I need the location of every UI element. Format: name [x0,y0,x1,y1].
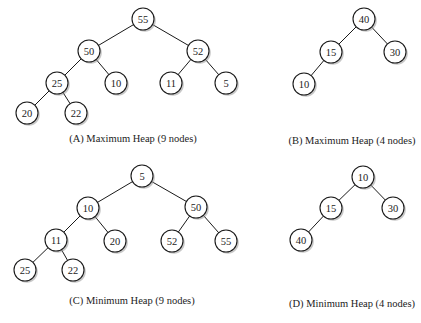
heap-a: 55505225101152022 [16,8,239,126]
node-value: 10 [299,79,310,90]
tree-node: 20 [104,230,128,254]
tree-node: 40 [353,8,377,32]
node-value: 10 [111,78,122,89]
node-value: 52 [167,236,178,247]
heap-figure: 5550522510115202240153010510501120525525… [0,0,421,323]
node-value: 55 [138,14,149,25]
tree-node: 11 [45,229,69,253]
tree-node: 5 [131,165,155,189]
node-value: 11 [166,78,176,89]
tree-node: 30 [382,197,406,221]
caption-d: (D) Minimum Heap (4 nodes) [289,298,415,309]
node-value: 52 [193,46,204,57]
node-value: 5 [223,78,228,89]
node-value: 15 [326,203,337,214]
tree-node: 10 [77,197,101,221]
tree-node: 20 [16,102,40,126]
tree-node: 52 [161,230,185,254]
tree-node: 22 [62,259,86,283]
tree-node: 50 [185,196,209,220]
tree-node: 11 [160,72,184,96]
caption-b: (B) Maximum Heap (4 nodes) [288,135,415,146]
tree-node: 50 [78,40,102,64]
node-value: 50 [191,202,202,213]
tree-node: 40 [290,229,314,253]
node-value: 11 [51,235,61,246]
node-value: 25 [52,78,63,89]
caption-a: (A) Maximum Heap (9 nodes) [69,133,197,144]
tree-node: 55 [215,230,239,254]
tree-node: 25 [14,259,38,283]
tree-node: 5 [215,72,239,96]
node-value: 40 [296,235,307,246]
node-value: 15 [326,47,337,58]
tree-node: 22 [65,102,89,126]
node-value: 20 [110,236,121,247]
node-value: 22 [71,108,82,119]
node-value: 50 [84,46,95,57]
tree-node: 55 [132,8,156,32]
node-value: 30 [390,47,401,58]
node-value: 25 [20,265,31,276]
heap-c: 51050112052552522 [14,165,239,283]
node-value: 40 [359,14,370,25]
heap-b: 40153010 [293,8,408,97]
node-value: 55 [221,236,232,247]
tree-node: 30 [384,41,408,65]
tree-node: 10 [105,72,129,96]
caption-c: (C) Minimum Heap (9 nodes) [69,295,194,306]
heap-trees: 5550522510115202240153010510501120525525… [0,0,421,323]
node-value: 20 [22,108,33,119]
node-value: 22 [68,265,79,276]
heap-d: 10153040 [290,166,406,253]
node-value: 30 [388,203,399,214]
node-value: 5 [139,171,144,182]
tree-node: 10 [293,73,317,97]
node-value: 10 [83,203,94,214]
tree-node: 25 [46,72,70,96]
tree-node: 15 [320,197,344,221]
tree-node: 10 [352,166,376,190]
node-value: 10 [358,172,369,183]
